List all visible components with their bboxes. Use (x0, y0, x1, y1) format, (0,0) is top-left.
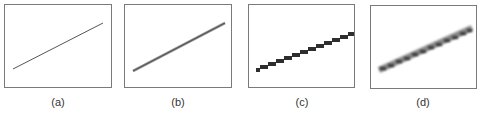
antialiased-line-diagram (125, 5, 233, 89)
panel-d-frame (370, 5, 477, 89)
caption-c: (c) (282, 96, 322, 108)
blurred-stairstep-diagram (371, 6, 478, 90)
panel-c-frame (248, 4, 355, 88)
caption-d: (d) (403, 96, 443, 108)
caption-b: (b) (158, 96, 198, 108)
thin-line-diagram (5, 5, 113, 89)
panel-b-frame (124, 4, 232, 88)
caption-a: (a) (38, 96, 78, 108)
aliased-stairstep-diagram (249, 5, 356, 89)
panel-a-frame (4, 4, 112, 88)
